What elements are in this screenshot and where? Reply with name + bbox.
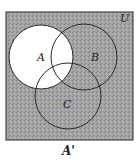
venn-diagram: U A B C A' — [0, 0, 138, 160]
set-c-label: C — [63, 98, 72, 111]
set-a-label: A — [36, 51, 45, 64]
diagram-caption: A' — [61, 144, 75, 158]
universal-label: U — [120, 12, 130, 25]
set-b-label: B — [90, 51, 99, 64]
